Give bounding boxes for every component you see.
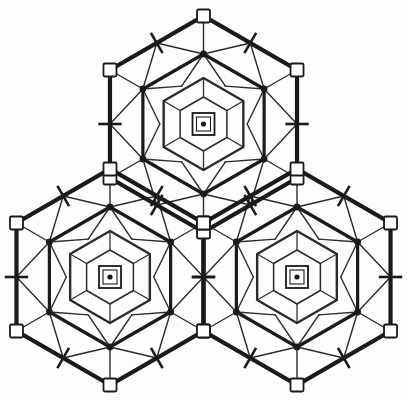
vertex-square-node (103, 64, 116, 77)
inner-cell-wall (154, 242, 171, 277)
vertex-square-node (197, 10, 210, 23)
unit-cell-bottom-right-unit (203, 169, 390, 385)
inner-cell-wall (247, 89, 264, 124)
cell-wall-diagonal (203, 277, 236, 312)
core-spoke (257, 254, 273, 264)
figure-root (0, 0, 407, 401)
inner-cell-wall (143, 124, 160, 159)
cell-wall-diagonal (63, 196, 110, 207)
cell-wall-diagonal (110, 124, 143, 159)
vertex-node-dot (46, 239, 53, 246)
vertex-node-dot (261, 86, 268, 93)
cell-wall-diagonal (264, 124, 297, 159)
inner-cell-wall (341, 277, 358, 312)
core-spoke (70, 291, 86, 301)
vertex-square-node (104, 379, 117, 392)
cell-wall-diagonal (297, 196, 344, 207)
inner-cell-wall (49, 242, 66, 277)
vertex-square-node (104, 163, 117, 176)
vertex-square-node (291, 163, 304, 176)
vertex-node-dot (107, 344, 114, 351)
vertex-node-dot (200, 51, 207, 58)
core-spoke (320, 254, 336, 264)
vertex-square-node (10, 325, 23, 338)
inner-cell-wall (236, 242, 253, 277)
core-spoke (133, 291, 149, 301)
cell-wall-diagonal (358, 277, 391, 312)
core-spoke (70, 254, 86, 264)
cell-wall-diagonal (63, 347, 110, 358)
cell-wall-diagonal (171, 242, 204, 277)
core-spoke (164, 101, 180, 111)
vertex-node-dot (107, 204, 114, 211)
vertex-node-dot (354, 309, 361, 316)
cell-wall-diagonal (171, 277, 204, 312)
inner-cell-wall (154, 277, 171, 312)
vertex-square-node (384, 217, 397, 230)
vertex-node-dot (294, 344, 301, 351)
vertex-node-dot (294, 204, 301, 211)
cell-wall-diagonal (16, 242, 49, 277)
cell-wall-diagonal (250, 347, 297, 358)
core-spoke (227, 138, 243, 148)
vertex-square-node (291, 64, 304, 77)
vertex-node-dot (139, 86, 146, 93)
vertex-square-node (197, 325, 210, 338)
center-symbol-dot (294, 274, 299, 279)
vertex-node-dot (233, 239, 240, 246)
vertex-square-node (291, 379, 304, 392)
core-spoke (320, 291, 336, 301)
unit-cell-top-unit (110, 16, 297, 232)
vertex-square-node (384, 325, 397, 338)
center-symbol-dot (107, 274, 112, 279)
cell-wall-diagonal (203, 242, 236, 277)
cell-wall-diagonal (110, 347, 157, 358)
vertex-node-dot (46, 309, 53, 316)
core-spoke (133, 254, 149, 264)
inner-cell-wall (247, 124, 264, 159)
vertex-square-node (197, 217, 210, 230)
inner-cell-wall (236, 277, 253, 312)
vertex-node-dot (167, 309, 174, 316)
vertex-node-dot (167, 239, 174, 246)
cell-wall-diagonal (204, 43, 251, 54)
vertex-node-dot (261, 156, 268, 163)
core-spoke (257, 291, 273, 301)
cell-wall-diagonal (16, 277, 49, 312)
cell-wall-diagonal (358, 242, 391, 277)
vertex-node-dot (139, 156, 146, 163)
vertex-node-dot (233, 309, 240, 316)
inner-cell-wall (341, 242, 358, 277)
inner-cell-wall (49, 277, 66, 312)
cell-wall-diagonal (110, 89, 143, 124)
center-symbol-dot (201, 121, 206, 126)
inner-cell-wall (143, 89, 160, 124)
unit-cell-bottom-left-unit (16, 169, 203, 385)
vertex-node-dot (200, 191, 207, 198)
cell-wall-diagonal (157, 43, 204, 54)
hexagonal-tiling-diagram (0, 0, 407, 401)
core-spoke (227, 101, 243, 111)
core-spoke (164, 138, 180, 148)
vertex-node-dot (354, 239, 361, 246)
vertex-square-node (10, 217, 23, 230)
cell-wall-diagonal (264, 89, 297, 124)
cell-wall-diagonal (297, 347, 344, 358)
